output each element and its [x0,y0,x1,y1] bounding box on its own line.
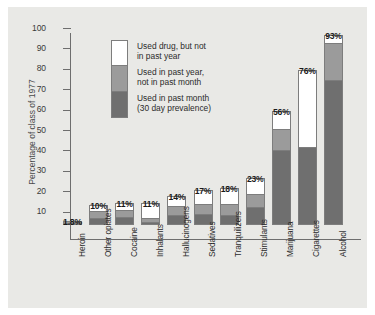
y-tick-100 [63,28,71,29]
x-axis-label-alcohol: Alcohol [338,245,348,257]
x-axis-label-text: Inhalants [155,245,165,257]
legend-entry-line2: in past year [137,51,211,61]
x-axis-label-text: Tranquilizers [233,245,243,257]
bar-segment-mid [247,195,264,207]
x-axis-label-text: Stimulants [259,245,269,257]
x-axis-label-inhalants: Inhalants [155,245,165,257]
y-tick-label-10: 10 [37,207,46,216]
y-tick-label-50: 50 [37,126,46,135]
x-axis-label-cocaine: Cocaine [129,245,139,257]
legend-entry-3: Used in past month(30 day prevalence) [137,92,211,118]
x-axis-label-text: Cigarettes [311,245,321,257]
x-axis-label-marijuana: Marijuana [285,245,295,257]
legend-swatch-3 [112,92,127,117]
bar-marijuana[interactable] [272,111,291,225]
y-tick-30 [63,171,71,172]
bar-alcohol[interactable] [324,35,343,225]
y-tick-80 [63,69,71,70]
x-axis-label-text: Marijuana [285,245,295,257]
x-axis-label-text: Sedatives [207,245,217,257]
y-axis-line [70,33,71,240]
y-tick-70 [63,89,71,90]
bar-segment-dark [299,148,316,225]
y-tick-label-80: 80 [37,64,46,73]
legend-entry-1: Used drug, but notin past year [137,40,211,66]
legend-entry-line1: Used in past year, [137,67,211,77]
bar-segment-dark [325,81,342,225]
y-tick-label-30: 30 [37,166,46,175]
bar-segment-white [299,71,316,149]
x-axis-label-other-opiates: Other opiates [103,245,113,257]
y-tick-10 [63,212,71,213]
y-tick-40 [63,150,71,151]
legend-entry-line2: not in past month [137,77,211,87]
chart-legend: Used drug, but notin past yearUsed in pa… [111,40,211,118]
legend-swatch-1 [112,41,127,66]
legend-entry-line1: Used in past month [137,93,211,103]
bar-value-label: 93% [311,31,357,41]
y-tick-50 [63,130,71,131]
bar-cigarettes[interactable] [298,70,317,225]
x-axis-label-text: Alcohol [338,245,348,257]
x-axis-label-text: Other opiates [103,245,113,257]
y-tick-label-40: 40 [37,146,46,155]
x-axis-label-text: Cocaine [129,245,139,257]
legend-entry-line2: (30 day prevalence) [137,103,211,113]
x-axis-label-hallucinogens: Hallucinogens [181,245,191,257]
y-tick-label-100: 100 [32,24,46,33]
x-axis-label-stimulants: Stimulants [259,245,269,257]
x-axis-label-text: Heroin [77,245,87,257]
y-tick-20 [63,191,71,192]
x-axis-label-sedatives: Sedatives [207,245,217,257]
legend-swatch-stack [111,40,128,118]
bar-segment-mid [116,211,133,218]
y-tick-90 [63,48,71,49]
y-axis-title: Percentage of class of 1977 [27,62,37,202]
y-tick-60 [63,110,71,111]
bar-segment-dark [116,218,133,225]
bar-segment-mid [273,130,290,150]
bar-segment-dark [273,151,290,225]
y-tick-label-60: 60 [37,105,46,114]
bar-segment-mid [325,44,342,81]
y-tick-label-70: 70 [37,85,46,94]
x-axis-label-cigarettes: Cigarettes [311,245,321,257]
x-axis-label-text: Hallucinogens [181,245,191,257]
bar-segment-mid [195,205,212,215]
y-tick-label-20: 20 [37,187,46,196]
legend-swatch-2 [112,66,127,91]
legend-entry-line1: Used drug, but not [137,41,211,51]
x-axis-label-heroin: Heroin [77,245,87,257]
legend-labels: Used drug, but notin past yearUsed in pa… [137,40,211,118]
legend-entry-2: Used in past year,not in past month [137,66,211,92]
x-axis-label-tranquilizers: Tranquilizers [233,245,243,257]
y-tick-label-90: 90 [37,44,46,53]
chart-panel: Percentage of class of 1977 100908070605… [8,7,367,308]
bar-stimulants[interactable] [246,178,265,225]
chart-figure: Percentage of class of 1977 100908070605… [0,0,375,315]
